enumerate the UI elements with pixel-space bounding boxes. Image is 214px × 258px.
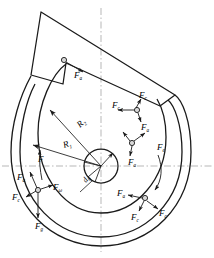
bottom-force-g-label: Fg [34,221,44,232]
top-right-force-node [118,99,141,122]
top-right-force-c-label: Fc [138,90,148,101]
top-right-force-c2-label: Fc [111,100,121,111]
radius-outer-dimension [50,110,101,166]
bottom-right-force-a-label: Fa [116,188,126,199]
mid-right-force-a-label: Fa [127,157,137,168]
diagram-canvas: R2 R1 dθ Fa Fc Fc Fa Fa Fe [0,0,214,258]
bottom-right-force-c-label: Fc [130,212,140,223]
inlet-blade-outline [31,12,175,106]
force-diagram: R2 R1 dθ Fa Fc Fc Fa Fa Fe [0,0,214,258]
mid-right-force-node [123,132,145,156]
radius-outer-label: R2 [74,116,89,131]
bottom-right-force-c2-label: Fc [158,208,168,219]
left-force-a-label: Fa [16,172,26,183]
radius-inner-label: R1 [61,138,73,151]
right-force-e-label: Fe [156,142,166,153]
left-force-plain-label: F [37,154,44,164]
left-force-omega-label: Fω [52,182,63,193]
blade-force-a-label: Fa [73,70,83,81]
top-right-force-a-label: Fa [140,122,150,133]
